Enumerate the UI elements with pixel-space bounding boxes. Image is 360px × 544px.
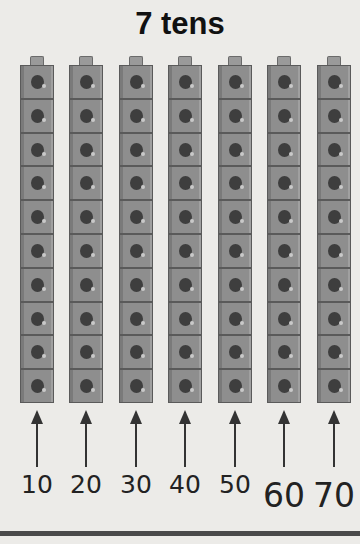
cube-hole xyxy=(328,109,341,123)
cube-hole xyxy=(31,143,44,157)
cube-hole xyxy=(229,109,242,123)
unit-cube xyxy=(168,200,202,234)
unit-cube xyxy=(20,335,54,369)
bottom-rule xyxy=(0,531,360,536)
cube-hole xyxy=(179,143,192,157)
unit-cube xyxy=(317,65,351,99)
unit-cube xyxy=(317,302,351,336)
cube-hole xyxy=(80,379,93,393)
unit-cube xyxy=(168,65,202,99)
unit-cube xyxy=(267,65,301,99)
up-arrow-icon xyxy=(135,412,137,467)
up-arrow-icon xyxy=(184,412,186,467)
unit-cube xyxy=(20,133,54,167)
cube-hole xyxy=(130,345,143,359)
cube-hole xyxy=(328,75,341,89)
cube-hole xyxy=(179,345,192,359)
cube-hole xyxy=(179,210,192,224)
cube-hole xyxy=(31,109,44,123)
cube-hole xyxy=(328,176,341,190)
unit-cube xyxy=(218,99,252,133)
unit-cube xyxy=(119,369,153,403)
cube-hole xyxy=(278,176,291,190)
unit-cube xyxy=(20,99,54,133)
cube-hole xyxy=(328,312,341,326)
unit-cube xyxy=(267,268,301,302)
cube-hole xyxy=(130,176,143,190)
cube-hole xyxy=(31,379,44,393)
cube-hole xyxy=(328,244,341,258)
unit-cube xyxy=(168,335,202,369)
cube-hole xyxy=(130,278,143,292)
unit-cube xyxy=(317,335,351,369)
cube-hole xyxy=(80,244,93,258)
cube-hole xyxy=(229,345,242,359)
unit-cube xyxy=(317,200,351,234)
unit-cube xyxy=(168,166,202,200)
unit-cube xyxy=(20,234,54,268)
unit-cube xyxy=(267,99,301,133)
unit-cube xyxy=(267,302,301,336)
cube-hole xyxy=(80,75,93,89)
unit-cube xyxy=(218,166,252,200)
up-arrow-icon xyxy=(283,412,285,467)
unit-cube xyxy=(218,200,252,234)
cube-hole xyxy=(278,379,291,393)
cube-hole xyxy=(130,379,143,393)
cube-hole xyxy=(328,278,341,292)
unit-cube xyxy=(69,234,103,268)
unit-cube xyxy=(168,99,202,133)
cube-hole xyxy=(278,345,291,359)
unit-cube xyxy=(267,335,301,369)
unit-cube xyxy=(168,369,202,403)
cube-hole xyxy=(130,143,143,157)
cube-hole xyxy=(179,176,192,190)
up-arrow-icon xyxy=(234,412,236,467)
unit-cube xyxy=(218,369,252,403)
unit-cube xyxy=(20,65,54,99)
cube-hole xyxy=(278,278,291,292)
unit-cube xyxy=(317,133,351,167)
unit-cube xyxy=(168,302,202,336)
cube-hole xyxy=(328,379,341,393)
title: 7 tens xyxy=(0,6,360,42)
unit-cube xyxy=(267,166,301,200)
cube-hole xyxy=(278,210,291,224)
cube-hole xyxy=(130,244,143,258)
cube-hole xyxy=(229,244,242,258)
unit-cube xyxy=(69,335,103,369)
cube-hole xyxy=(179,75,192,89)
cube-hole xyxy=(31,312,44,326)
cube-hole xyxy=(31,278,44,292)
cube-hole xyxy=(229,312,242,326)
unit-cube xyxy=(267,200,301,234)
cube-hole xyxy=(80,109,93,123)
cube-hole xyxy=(80,210,93,224)
unit-cube xyxy=(119,133,153,167)
unit-cube xyxy=(218,234,252,268)
unit-cube xyxy=(20,369,54,403)
cube-hole xyxy=(328,345,341,359)
cube-hole xyxy=(328,210,341,224)
unit-cube xyxy=(119,335,153,369)
unit-cube xyxy=(218,133,252,167)
unit-cube xyxy=(119,166,153,200)
unit-cube xyxy=(317,268,351,302)
cube-hole xyxy=(278,109,291,123)
unit-cube xyxy=(119,200,153,234)
unit-cube xyxy=(168,268,202,302)
cube-hole xyxy=(179,379,192,393)
unit-cube xyxy=(317,369,351,403)
up-arrow-icon xyxy=(333,412,335,467)
cube-hole xyxy=(229,278,242,292)
cube-hole xyxy=(31,345,44,359)
unit-cube xyxy=(218,268,252,302)
unit-cube xyxy=(317,99,351,133)
cube-hole xyxy=(80,312,93,326)
cube-hole xyxy=(229,143,242,157)
unit-cube xyxy=(20,166,54,200)
cube-hole xyxy=(229,379,242,393)
cube-hole xyxy=(278,312,291,326)
unit-cube xyxy=(119,65,153,99)
unit-cube xyxy=(119,99,153,133)
